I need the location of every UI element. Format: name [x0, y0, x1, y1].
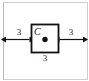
square-label: C [34, 27, 41, 37]
geometry-diagram: C 3 3 3 [0, 0, 89, 81]
bottom-dimension-label: 3 [38, 54, 52, 63]
center-dot [42, 37, 47, 42]
diagram-canvas [0, 0, 89, 81]
left-dimension-label: 3 [12, 28, 26, 37]
right-dimension-label: 3 [64, 28, 78, 37]
